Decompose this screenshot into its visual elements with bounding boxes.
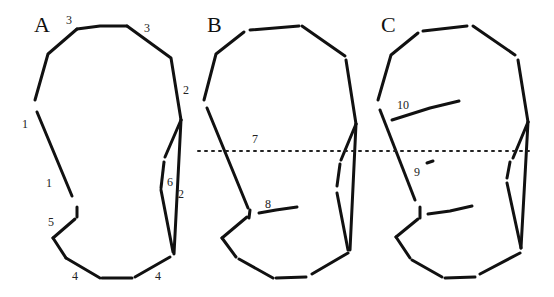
outline-segment [507, 183, 521, 248]
outline-segment [35, 29, 77, 100]
outline-segment [337, 193, 348, 250]
outline-segment [346, 60, 356, 124]
segment-number: 4 [72, 270, 78, 282]
outline-segment [250, 26, 299, 30]
segment-number: 8 [265, 198, 271, 210]
outline-segment [428, 206, 472, 214]
outline-segment [312, 253, 348, 274]
outline-segment [204, 32, 244, 100]
outline-segment [427, 161, 433, 163]
outline-segment [412, 260, 442, 277]
outline-segment [249, 210, 250, 218]
segment-number: 4 [155, 270, 161, 282]
segment-number: 10 [397, 99, 409, 111]
outline-segment [378, 33, 418, 100]
outline-segment [521, 122, 528, 248]
segment-number: 1 [46, 177, 52, 189]
outline-segment [480, 253, 520, 274]
outline-segment [507, 162, 510, 178]
outline-segment [396, 219, 418, 237]
segment-number: 3 [66, 14, 72, 26]
outline-segment [423, 26, 467, 31]
outline-segment [350, 124, 356, 250]
outline-segment [77, 26, 127, 29]
outline-segment [222, 238, 236, 257]
segment-number: 7 [252, 133, 258, 145]
outline-segment [161, 190, 173, 252]
segment-number: 6 [167, 176, 173, 188]
segment-number: 2 [178, 188, 184, 200]
panel-label-c: C [381, 14, 396, 36]
outline-segment [518, 60, 528, 122]
outline-segment [161, 162, 164, 188]
outline-segment [127, 26, 181, 120]
outline-segment [53, 238, 66, 258]
outline-segment [473, 26, 515, 55]
outline-segment [37, 112, 72, 196]
head-outline-sketches [0, 0, 554, 297]
outline-segment [302, 26, 345, 56]
outline-segment [222, 217, 247, 238]
segment-number: 2 [183, 84, 189, 96]
segment-number: 3 [144, 22, 150, 34]
segment-number: 1 [22, 118, 28, 130]
outline-segment [445, 277, 475, 278]
panel-c-outline [378, 26, 528, 278]
outline-segment [380, 110, 415, 200]
outline-segment [276, 277, 306, 278]
panel-label-a: A [34, 14, 50, 36]
panel-label-b: B [207, 14, 222, 36]
outline-segments [35, 26, 528, 278]
diagram-figure: A B C 332116254478109 [0, 0, 554, 297]
panel-a-outline [35, 26, 181, 278]
outline-segment [207, 108, 248, 208]
outline-segment [337, 164, 340, 186]
outline-segment [396, 237, 410, 258]
outline-segment [135, 257, 170, 277]
segment-number: 5 [48, 216, 54, 228]
segment-number: 9 [414, 166, 420, 178]
outline-segment [53, 219, 75, 238]
outline-segment [239, 259, 273, 278]
